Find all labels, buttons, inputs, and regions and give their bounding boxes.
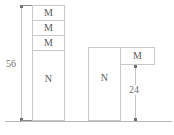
left-dimension-line [21,6,22,121]
left-segment-m-1-label: M [33,8,64,18]
diagram-canvas: 56 M M M N N M 24 [0,0,174,135]
left-segment-m-3: M [32,35,65,51]
right-dimension-arrow-top [134,65,137,68]
right-dimension-value: 24 [128,85,140,95]
left-segment-m-3-label: M [33,38,64,48]
left-extension-tick-top [21,5,32,6]
left-segment-n-label: N [33,74,64,84]
left-segment-m-2: M [32,20,65,36]
left-segment-m-2-label: M [33,23,64,33]
ground-baseline [5,121,172,122]
right-segment-m-label: M [121,51,154,61]
right-segment-n: N [88,47,121,121]
left-segment-n: N [32,50,65,121]
right-segment-m: M [120,47,155,65]
left-segment-m-1: M [32,5,65,21]
left-dimension-value: 56 [5,59,17,69]
right-segment-n-label: N [89,73,120,83]
